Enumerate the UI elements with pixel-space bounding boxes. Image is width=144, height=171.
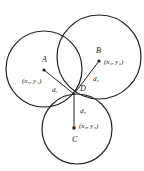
label-c: C (72, 135, 78, 144)
point-c-dot (73, 127, 76, 130)
label-b: B (96, 46, 101, 55)
segment-d1 (44, 70, 74, 94)
label-a-coord: (x₁, y₁) (22, 77, 42, 85)
point-b-dot (97, 59, 100, 62)
circle-b (57, 15, 141, 99)
point-a-dot (42, 68, 45, 71)
circle-c (42, 94, 112, 164)
label-a: A (41, 55, 47, 64)
label-d3: d₃ (80, 107, 87, 115)
label-d1: d₁ (52, 86, 58, 94)
label-d2: d₂ (93, 75, 100, 83)
label-c-coord: (x₃, y₃) (79, 122, 99, 130)
trilateration-diagram: A (x₁, y₁) d₁ B (x₂, y₂) d₂ D d₃ (x₃, y₃… (0, 0, 144, 171)
label-d: D (79, 84, 86, 93)
label-b-coord: (x₂, y₂) (104, 58, 124, 66)
